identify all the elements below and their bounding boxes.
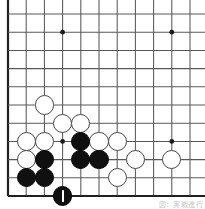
stone-black[interactable]	[71, 132, 90, 151]
stone-black[interactable]	[89, 150, 108, 169]
stone-black[interactable]	[17, 168, 36, 187]
stone-black[interactable]	[71, 150, 90, 169]
stone-black[interactable]	[35, 150, 54, 169]
go-board-figure: 図：実戦進行	[0, 0, 205, 209]
stone-black[interactable]	[35, 168, 54, 187]
stone-white[interactable]	[71, 114, 90, 133]
stone-layer[interactable]	[0, 0, 205, 209]
figure-caption: 図：実戦進行	[159, 201, 203, 209]
stone-white[interactable]	[162, 150, 181, 169]
stone-white[interactable]	[126, 150, 145, 169]
stone-white[interactable]	[89, 132, 108, 151]
stone-white[interactable]	[53, 114, 72, 133]
stone-white[interactable]	[108, 168, 127, 187]
stone-white[interactable]	[17, 150, 36, 169]
stone-white[interactable]	[17, 132, 36, 151]
last-move-marker	[62, 190, 64, 202]
stone-white[interactable]	[35, 95, 54, 114]
stone-white[interactable]	[108, 132, 127, 151]
stone-white[interactable]	[35, 132, 54, 151]
